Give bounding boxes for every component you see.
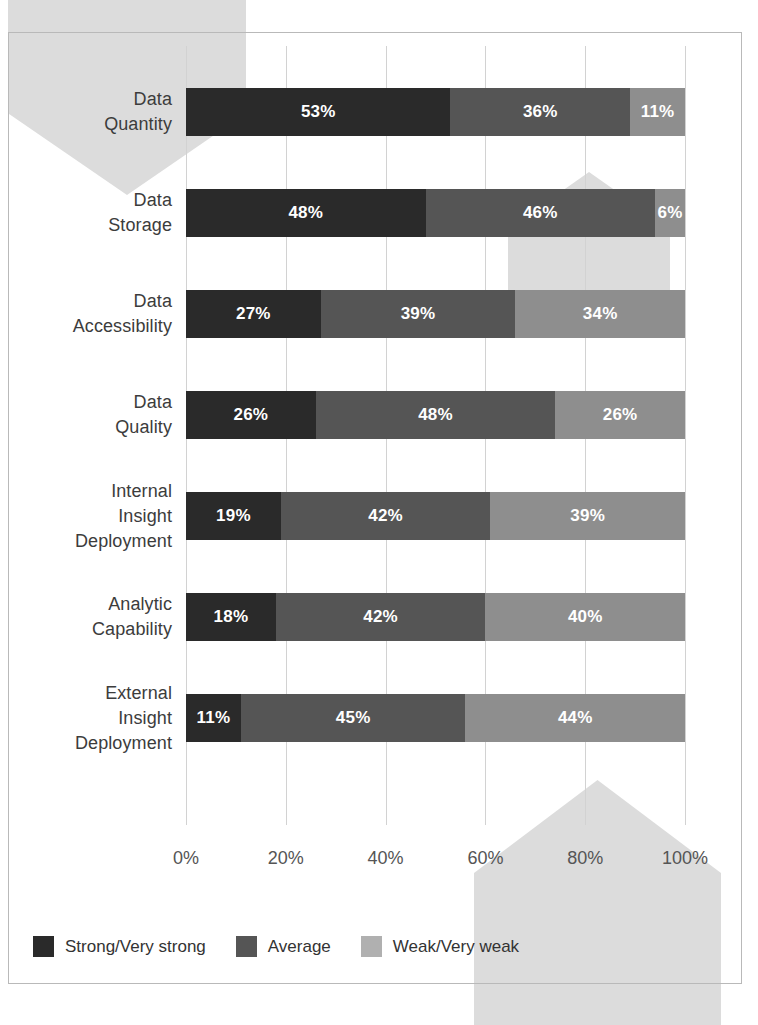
bar-segment-0: 53% [186, 88, 450, 136]
category-label-line: Analytic [0, 592, 172, 617]
legend-item[interactable]: Strong/Very strong [33, 936, 206, 957]
bar-row: 48%46%6% [186, 189, 685, 237]
stacked-bar: 27%39%34% [186, 290, 685, 338]
bar-segment-value: 48% [418, 405, 453, 425]
category-label: DataQuality [0, 390, 172, 440]
legend-label: Average [268, 937, 331, 957]
bar-row: 53%36%11% [186, 88, 685, 136]
category-label-line: Capability [0, 617, 172, 642]
chart-legend: Strong/Very strongAverageWeak/Very weak [33, 936, 549, 957]
legend-label: Strong/Very strong [65, 937, 206, 957]
category-label-line: Accessibility [0, 314, 172, 339]
bar-segment-value: 45% [336, 708, 371, 728]
category-label-line: Quality [0, 415, 172, 440]
legend-item[interactable]: Average [236, 936, 331, 957]
category-label-line: External [0, 681, 172, 706]
bar-segment-value: 39% [570, 506, 605, 526]
bar-segment-value: 44% [558, 708, 593, 728]
category-label-line: Data [0, 390, 172, 415]
bar-segment-value: 36% [523, 102, 558, 122]
category-label: DataStorage [0, 188, 172, 238]
bar-segment-0: 18% [186, 593, 276, 641]
legend-swatch-icon [236, 936, 257, 957]
bar-segment-value: 42% [363, 607, 398, 627]
bar-segment-0: 48% [186, 189, 426, 237]
category-label: DataAccessibility [0, 289, 172, 339]
stacked-bar: 53%36%11% [186, 88, 685, 136]
bar-segment-value: 19% [216, 506, 251, 526]
bar-segment-value: 11% [197, 708, 231, 728]
x-tick-label: 20% [246, 848, 326, 869]
bar-segment-value: 26% [603, 405, 638, 425]
bar-segment-1: 36% [450, 88, 630, 136]
category-label-line: Insight [0, 706, 172, 731]
bar-segment-value: 26% [234, 405, 269, 425]
bar-segment-0: 19% [186, 492, 281, 540]
bar-segment-2: 11% [630, 88, 685, 136]
bar-segment-value: 34% [583, 304, 618, 324]
bar-segment-1: 39% [321, 290, 516, 338]
x-tick-label: 60% [445, 848, 525, 869]
legend-label: Weak/Very weak [393, 937, 519, 957]
stacked-bar: 48%46%6% [186, 189, 685, 237]
bar-segment-value: 39% [401, 304, 436, 324]
bar-segment-2: 6% [655, 189, 685, 237]
legend-item[interactable]: Weak/Very weak [361, 936, 519, 957]
bar-segment-2: 39% [490, 492, 685, 540]
legend-swatch-icon [361, 936, 382, 957]
bar-segment-2: 40% [485, 593, 685, 641]
category-label-line: Deployment [0, 731, 172, 756]
x-tick-label: 100% [645, 848, 725, 869]
bar-segment-2: 26% [555, 391, 685, 439]
bar-row: 27%39%34% [186, 290, 685, 338]
bar-segment-1: 46% [426, 189, 656, 237]
bar-segment-value: 40% [568, 607, 603, 627]
category-label-line: Data [0, 87, 172, 112]
stacked-bar: 19%42%39% [186, 492, 685, 540]
bar-segment-2: 34% [515, 290, 685, 338]
category-label: AnalyticCapability [0, 592, 172, 642]
gridline-100 [685, 46, 686, 825]
bar-segment-2: 44% [465, 694, 685, 742]
x-tick-label: 0% [146, 848, 226, 869]
bar-row: 11%45%44% [186, 694, 685, 742]
bar-segment-value: 6% [658, 203, 683, 223]
category-label: DataQuantity [0, 87, 172, 137]
bar-segment-value: 42% [368, 506, 403, 526]
bar-row: 26%48%26% [186, 391, 685, 439]
bar-row: 18%42%40% [186, 593, 685, 641]
category-label-line: Data [0, 188, 172, 213]
bar-segment-0: 26% [186, 391, 316, 439]
category-label-line: Deployment [0, 529, 172, 554]
stacked-bar: 26%48%26% [186, 391, 685, 439]
x-tick-label: 80% [545, 848, 625, 869]
category-label-line: Internal [0, 479, 172, 504]
bar-segment-1: 42% [276, 593, 486, 641]
category-label: ExternalInsightDeployment [0, 681, 172, 756]
bar-segment-value: 46% [523, 203, 558, 223]
bar-segment-0: 11% [186, 694, 241, 742]
category-label-line: Storage [0, 213, 172, 238]
category-label-line: Quantity [0, 112, 172, 137]
category-label-line: Data [0, 289, 172, 314]
bar-segment-1: 45% [241, 694, 466, 742]
bar-segment-0: 27% [186, 290, 321, 338]
bar-row: 19%42%39% [186, 492, 685, 540]
stacked-bar: 11%45%44% [186, 694, 685, 742]
bar-segment-value: 27% [236, 304, 271, 324]
category-label-line: Insight [0, 504, 172, 529]
bar-segment-value: 53% [301, 102, 336, 122]
x-tick-label: 40% [346, 848, 426, 869]
legend-swatch-icon [33, 936, 54, 957]
stacked-bar: 18%42%40% [186, 593, 685, 641]
bar-segment-1: 48% [316, 391, 556, 439]
bar-segment-value: 18% [214, 607, 249, 627]
bar-segment-1: 42% [281, 492, 491, 540]
bar-segment-value: 11% [641, 102, 675, 122]
category-label: InternalInsightDeployment [0, 479, 172, 554]
bar-segment-value: 48% [288, 203, 323, 223]
